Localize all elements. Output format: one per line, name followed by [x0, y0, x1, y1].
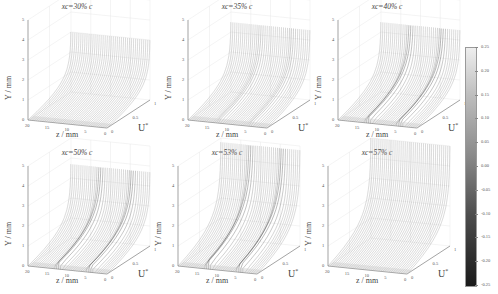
plot-panel-2: xc=35% c Y / mm z / mm U* 01234520151050… — [162, 0, 312, 140]
tick-label: 15 — [355, 125, 360, 130]
plot-panel-4: xc=50% c Y / mm z / mm U* 01234520151050… — [2, 146, 152, 286]
colorbar-tick-mark — [475, 285, 478, 286]
y-axis-label: Y / mm — [304, 222, 313, 246]
tick-label: 5 — [84, 129, 86, 134]
tick-label: 10 — [65, 273, 70, 278]
u-axis-label: U* — [138, 122, 148, 133]
tick-label: 5 — [182, 17, 184, 22]
tick-label: 0 — [261, 275, 263, 280]
colorbar-tick-mark — [475, 95, 478, 96]
y-axis-label: Y / mm — [314, 76, 323, 100]
tick-label: 5 — [332, 17, 334, 22]
tick-label: 1 — [454, 247, 456, 252]
colorbar-tick-mark — [475, 214, 478, 215]
colorbar-tick-mark — [475, 142, 478, 143]
colorbar-tick-mark — [475, 190, 478, 191]
colorbar-tick-mark — [475, 118, 478, 119]
u-axis-label: U* — [138, 268, 148, 279]
tick-label: 5 — [22, 163, 24, 168]
y-axis-label: Y / mm — [164, 76, 173, 100]
tick-label: 3 — [182, 57, 184, 62]
tick-label: 10 — [225, 127, 230, 132]
colorbar-tick-label: -0.20 — [481, 258, 490, 263]
plot-panel-6: xc=57% c Y / mm z / mm U* 01234520151050… — [302, 146, 452, 286]
surface-plot — [152, 146, 302, 286]
tick-label: 0 — [254, 277, 256, 282]
tick-label: 0 — [104, 277, 106, 282]
tick-label: 1 — [22, 243, 24, 248]
tick-label: 1 — [182, 97, 184, 102]
tick-label: 20 — [25, 123, 30, 128]
tick-label: 0 — [332, 117, 334, 122]
tick-label: 0.5 — [133, 261, 139, 266]
tick-label: 0 — [411, 275, 413, 280]
tick-label: 0 — [271, 129, 273, 134]
tick-label: 1 — [172, 243, 174, 248]
y-axis-label: Y / mm — [154, 222, 163, 246]
u-axis-label: U* — [288, 268, 298, 279]
tick-label: 0 — [172, 263, 174, 268]
colorbar-tick-label: 0.00 — [481, 163, 489, 168]
surface-plot — [162, 0, 312, 140]
surface-plot — [302, 146, 452, 286]
u-axis-label: U* — [448, 122, 458, 133]
tick-label: 20 — [175, 269, 180, 274]
tick-label: 15 — [345, 271, 350, 276]
tick-label: 20 — [185, 123, 190, 128]
tick-label: 5 — [22, 17, 24, 22]
colorbar-tick-label: 0.05 — [481, 139, 489, 144]
surface-plot — [2, 0, 152, 140]
tick-label: 15 — [205, 125, 210, 130]
tick-label: 20 — [25, 269, 30, 274]
surface-plot — [312, 0, 462, 140]
colorbar-tick-label: -0.10 — [481, 211, 490, 216]
colorbar-tick-mark — [475, 71, 478, 72]
tick-label: 5 — [394, 129, 396, 134]
tick-label: 0.5 — [133, 115, 139, 120]
tick-label: 0 — [182, 117, 184, 122]
tick-label: 10 — [365, 273, 370, 278]
tick-label: 2 — [22, 77, 24, 82]
tick-label: 0 — [22, 263, 24, 268]
tick-label: 0.5 — [293, 115, 299, 120]
colorbar-tick-mark — [475, 261, 478, 262]
colorbar — [465, 47, 477, 287]
colorbar-tick-label: 0.15 — [481, 92, 489, 97]
plot-panel-5: xc=53% c Y / mm z / mm U* 01234520151050… — [152, 146, 302, 286]
colorbar-tick-mark — [475, 166, 478, 167]
tick-label: 0 — [322, 263, 324, 268]
tick-label: 15 — [195, 271, 200, 276]
tick-label: 5 — [84, 275, 86, 280]
tick-label: 0.5 — [433, 261, 439, 266]
tick-label: 1 — [332, 97, 334, 102]
u-axis-label: U* — [298, 122, 308, 133]
tick-label: 3 — [22, 57, 24, 62]
tick-label: 2 — [332, 77, 334, 82]
colorbar-tick-mark — [475, 47, 478, 48]
tick-label: 4 — [22, 183, 24, 188]
tick-label: 0 — [414, 131, 416, 136]
u-axis-label: U* — [438, 268, 448, 279]
tick-label: 0.5 — [443, 115, 449, 120]
tick-label: 10 — [65, 127, 70, 132]
colorbar-tick-label: 0.20 — [481, 68, 489, 73]
surface-plot — [2, 146, 152, 286]
tick-label: 0 — [104, 131, 106, 136]
tick-label: 5 — [244, 129, 246, 134]
tick-label: 0.5 — [283, 261, 289, 266]
tick-label: 20 — [325, 269, 330, 274]
plot-panel-3: xc=40% c Y / mm z / mm U* 01234520151050… — [312, 0, 462, 140]
tick-label: 2 — [22, 223, 24, 228]
tick-label: 2 — [172, 223, 174, 228]
tick-label: 5 — [322, 163, 324, 168]
tick-label: 4 — [322, 183, 324, 188]
tick-label: 3 — [332, 57, 334, 62]
colorbar-tick-label: 0.10 — [481, 115, 489, 120]
tick-label: 0 — [111, 129, 113, 134]
tick-label: 1 — [154, 101, 156, 106]
tick-label: 1 — [22, 97, 24, 102]
tick-label: 2 — [182, 77, 184, 82]
colorbar-tick-label: -0.15 — [481, 234, 490, 239]
tick-label: 0 — [421, 129, 423, 134]
tick-label: 0 — [22, 117, 24, 122]
